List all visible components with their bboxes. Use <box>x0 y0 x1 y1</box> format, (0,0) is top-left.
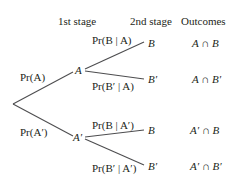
outcome-Aprime-and-Bprime: A′ ∩ B′ <box>190 160 222 172</box>
label-pr-Aprime: Pr(A′) <box>20 126 47 138</box>
label-pr-Bprime-given-A: Pr(B′ | A) <box>92 80 134 92</box>
node-A: A <box>75 64 82 76</box>
node-Bprime-bottom: B′ <box>148 160 157 172</box>
branch-A-B <box>85 42 144 69</box>
node-B-bottom: B <box>148 124 155 136</box>
outcome-A-and-B: A ∩ B <box>192 37 219 49</box>
header-outcomes: Outcomes <box>181 15 226 27</box>
label-pr-Bprime-given-Aprime: Pr(B′ | A′) <box>92 162 136 174</box>
label-pr-B-given-Aprime: Pr(B | A′) <box>92 119 134 131</box>
branch-A-Bprime <box>85 71 144 79</box>
node-B-top: B <box>148 37 155 49</box>
outcome-A-and-Bprime: A ∩ B′ <box>192 73 221 85</box>
branch-Aprime-B <box>85 130 144 137</box>
node-Bprime-top: B′ <box>148 73 157 85</box>
label-pr-A: Pr(A) <box>20 71 45 83</box>
label-pr-B-given-A: Pr(B | A) <box>92 34 131 46</box>
header-2nd-stage: 2nd stage <box>130 15 172 27</box>
node-Aprime: A′ <box>73 131 82 143</box>
outcome-Aprime-and-B: A′ ∩ B <box>190 124 219 136</box>
header-1st-stage: 1st stage <box>58 15 96 27</box>
